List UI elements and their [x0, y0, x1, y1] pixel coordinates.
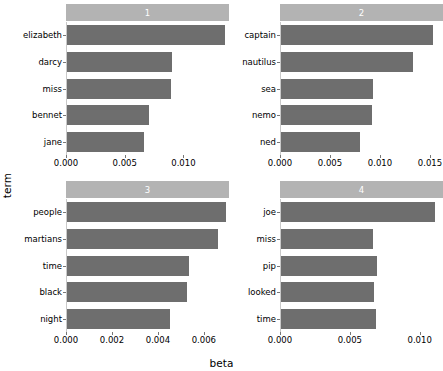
x-axis: 0.0000.0050.010	[280, 335, 443, 353]
y-tick-mark	[277, 115, 280, 116]
x-tick-label: 0.000	[268, 335, 292, 345]
y-tick-mark	[277, 212, 280, 213]
bar-night	[67, 309, 170, 329]
y-tick-label: ned	[232, 132, 280, 152]
y-tick-label: looked	[232, 282, 280, 302]
bar-joe	[281, 202, 435, 222]
facet-row-top: 1elizabethdarcymissbennetjane0.0000.0050…	[14, 2, 443, 178]
faceted-bar-chart: term 1elizabethdarcymissbennetjane0.0000…	[0, 0, 443, 371]
x-tick-mark	[125, 155, 126, 158]
x-tick-label: 0.006	[192, 335, 216, 345]
x-tick-label: 0.002	[100, 335, 124, 345]
bar-row	[281, 132, 443, 152]
x-tick-label: 0.000	[54, 335, 78, 345]
x-tick-mark	[66, 332, 67, 335]
x-axis: 0.0000.0020.0040.006	[66, 335, 229, 353]
x-tick-mark	[204, 332, 205, 335]
x-tick-label: 0.005	[113, 158, 137, 168]
bar-captain	[281, 25, 433, 45]
y-tick-label: nautilus	[232, 52, 280, 72]
y-tick-mark	[63, 266, 66, 267]
x-tick-label: 0.015	[418, 158, 442, 168]
y-tick-mark	[277, 239, 280, 240]
x-tick-mark	[280, 332, 281, 335]
x-tick-mark	[66, 155, 67, 158]
facet-strip-label: 1	[66, 4, 229, 21]
bar-looked	[281, 282, 374, 302]
x-tick-mark	[183, 155, 184, 158]
bar-row	[281, 105, 443, 125]
x-tick-label: 0.000	[54, 158, 78, 168]
bar-row	[281, 202, 443, 222]
bar-miss	[67, 79, 171, 99]
facet-panel-1: 1elizabethdarcymissbennetjane0.0000.0050…	[14, 2, 229, 178]
bar-row	[67, 105, 229, 125]
bar-row	[67, 52, 229, 72]
y-tick-mark	[277, 35, 280, 36]
y-tick-label: captain	[232, 25, 280, 45]
y-tick-label: darcy	[14, 52, 66, 72]
y-tick-label: pip	[232, 256, 280, 276]
y-tick-label: elizabeth	[14, 25, 66, 45]
x-tick-mark	[420, 332, 421, 335]
bar-row	[67, 309, 229, 329]
bar-row	[281, 229, 443, 249]
bar-bennet	[67, 105, 149, 125]
bar-time	[67, 256, 189, 276]
facet-strip-label: 4	[280, 181, 443, 198]
y-tick-mark	[277, 319, 280, 320]
bar-pip	[281, 256, 377, 276]
y-tick-label: people	[14, 202, 66, 222]
bar-martians	[67, 229, 218, 249]
y-tick-mark	[63, 239, 66, 240]
x-tick-mark	[112, 332, 113, 335]
bar-row	[281, 52, 443, 72]
y-tick-mark	[277, 142, 280, 143]
x-tick-mark	[380, 155, 381, 158]
x-tick-label: 0.005	[338, 335, 362, 345]
x-tick-label: 0.000	[268, 158, 292, 168]
bar-elizabeth	[67, 25, 225, 45]
y-tick-label: joe	[232, 202, 280, 222]
y-tick-mark	[63, 115, 66, 116]
bar-row	[281, 256, 443, 276]
bar-row	[281, 25, 443, 45]
y-tick-mark	[277, 292, 280, 293]
bar-row	[67, 25, 229, 45]
bar-sea	[281, 79, 373, 99]
bar-black	[67, 282, 187, 302]
y-tick-label: time	[232, 309, 280, 329]
y-tick-mark	[63, 319, 66, 320]
x-tick-label: 0.004	[146, 335, 170, 345]
x-tick-label: 0.010	[368, 158, 392, 168]
y-tick-mark	[277, 89, 280, 90]
plot-panel	[66, 22, 229, 155]
bar-row	[67, 79, 229, 99]
y-tick-mark	[63, 89, 66, 90]
x-axis-title: beta	[0, 355, 443, 371]
facet-grid: 1elizabethdarcymissbennetjane0.0000.0050…	[14, 2, 443, 355]
y-tick-label: martians	[14, 229, 66, 249]
plot-panel	[280, 199, 443, 332]
x-tick-mark	[280, 155, 281, 158]
facet-panel-4: 4joemisspiplookedtime0.0000.0050.010	[232, 179, 443, 355]
y-tick-label: bennet	[14, 105, 66, 125]
bar-miss	[281, 229, 373, 249]
y-tick-label: nemo	[232, 105, 280, 125]
plot-panel	[66, 199, 229, 332]
bar-row	[281, 79, 443, 99]
plot-panel	[280, 22, 443, 155]
y-tick-mark	[63, 35, 66, 36]
y-tick-mark	[63, 292, 66, 293]
x-tick-mark	[430, 155, 431, 158]
x-tick-mark	[158, 332, 159, 335]
bar-row	[67, 202, 229, 222]
y-tick-mark	[277, 266, 280, 267]
y-tick-label: time	[14, 256, 66, 276]
bar-darcy	[67, 52, 172, 72]
bar-time	[281, 309, 376, 329]
x-axis: 0.0000.0050.0100.015	[280, 158, 443, 176]
y-tick-label: jane	[14, 132, 66, 152]
y-axis-title: term	[0, 0, 14, 371]
bar-row	[67, 256, 229, 276]
